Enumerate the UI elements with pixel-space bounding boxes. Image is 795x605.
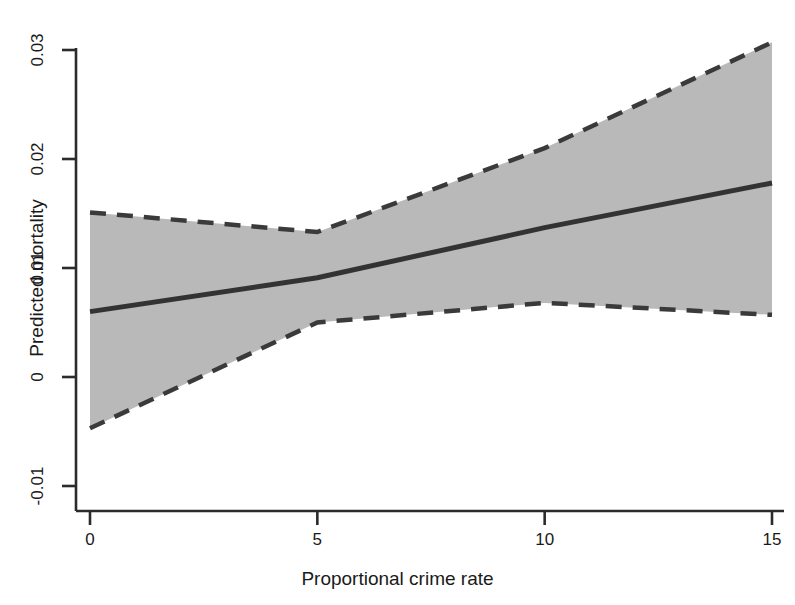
y-axis-title: Predicted mortality	[26, 158, 48, 398]
x-tick-label: 0	[60, 530, 120, 550]
x-tick-label: 5	[287, 530, 347, 550]
x-axis-ticks	[90, 511, 772, 525]
y-tick-label: 0.03	[28, 20, 48, 80]
x-tick-label: 10	[515, 530, 575, 550]
chart-figure: -0.0100.010.020.03 051015 Predicted mort…	[0, 0, 795, 605]
x-tick-label: 15	[742, 530, 795, 550]
confidence-band	[90, 42, 772, 428]
plot-area	[0, 0, 795, 605]
x-axis-title: Proportional crime rate	[0, 568, 795, 590]
y-tick-label: -0.01	[28, 456, 48, 516]
y-axis-ticks	[62, 50, 76, 486]
